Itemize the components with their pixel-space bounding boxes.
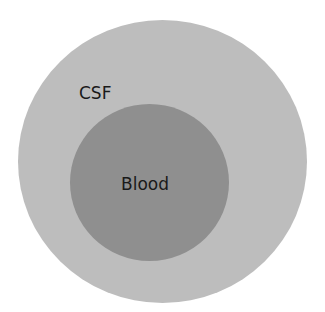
csf-label: CSF [79, 85, 111, 102]
blood-label: Blood [121, 176, 169, 193]
